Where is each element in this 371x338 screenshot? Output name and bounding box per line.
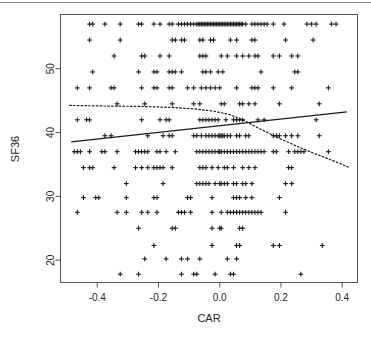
data-point-marker [90,22,95,27]
data-point-marker [213,181,218,186]
data-point-marker [188,195,193,200]
data-point-marker [197,101,202,106]
data-point-marker [124,210,129,215]
data-point-marker [179,272,184,277]
data-point-marker [228,133,233,138]
data-point-marker [145,165,150,170]
data-point-marker [179,70,184,75]
data-point-marker [170,22,175,27]
data-point-marker [211,38,216,43]
data-point-marker [243,181,248,186]
data-point-marker [317,133,322,138]
data-point-marker [265,22,270,27]
data-point-marker [259,70,264,75]
data-point-marker [256,54,261,59]
data-point-marker [237,243,242,248]
data-point-marker [213,85,218,90]
data-point-marker [246,165,251,170]
data-point-marker [216,70,221,75]
data-point-marker [234,38,239,43]
data-point-marker [139,85,144,90]
data-point-marker [234,54,239,59]
plot-panel [61,15,358,283]
data-point-marker [317,101,322,106]
data-point-marker [118,38,123,43]
data-point-marker [311,38,316,43]
data-point-marker [277,195,282,200]
data-point-marker [167,117,172,122]
data-point-marker [197,256,202,261]
data-point-marker [155,195,160,200]
data-point-marker [75,210,80,215]
data-point-marker [199,133,204,138]
data-point-marker [182,210,187,215]
data-point-marker [173,149,178,154]
data-point-marker [274,149,279,154]
data-point-marker [283,210,288,215]
data-point-marker [191,101,196,106]
y-axis-title: SF36 [9,136,21,162]
data-point-marker [237,195,242,200]
data-point-marker [173,38,178,43]
data-point-marker [259,210,264,215]
data-point-marker [253,101,258,106]
data-point-marker [188,210,193,215]
data-point-marker [170,133,175,138]
data-points-layer [72,22,339,277]
data-point-marker [155,85,160,90]
data-point-marker [309,22,314,27]
data-point-marker [199,85,204,90]
data-point-marker [170,85,175,90]
data-point-marker [204,70,209,75]
data-point-marker [246,133,251,138]
data-point-marker [185,85,190,90]
data-point-marker [204,165,209,170]
data-point-marker [87,149,92,154]
data-point-marker [139,210,144,215]
data-point-marker [164,256,169,261]
data-point-marker [167,54,172,59]
data-point-marker [225,181,230,186]
data-point-marker [216,165,221,170]
data-point-marker [115,101,120,106]
data-point-marker [194,272,199,277]
data-point-marker [295,133,300,138]
data-point-marker [222,101,227,106]
data-point-marker [210,210,215,215]
y-tick-label: 20 [45,254,56,266]
data-point-marker [243,22,248,27]
fit-lines-layer [70,105,350,167]
data-point-marker [225,165,230,170]
data-point-marker [81,195,86,200]
data-point-marker [161,133,166,138]
data-point-marker [112,85,117,90]
data-point-marker [289,165,294,170]
data-point-marker [216,117,221,122]
data-point-marker [145,210,150,215]
data-point-marker [115,210,120,215]
data-point-marker [249,195,254,200]
data-point-marker [136,226,141,231]
data-point-marker [90,70,95,75]
data-point-marker [151,22,156,27]
data-point-marker [210,226,215,231]
data-point-marker [228,38,233,43]
data-point-marker [207,181,212,186]
data-point-marker [208,70,213,75]
data-point-marker [298,272,303,277]
data-point-marker [295,70,300,75]
data-point-marker [191,85,196,90]
data-point-marker [210,243,215,248]
x-tick-label: -0.4 [89,292,107,303]
data-point-marker [295,54,300,59]
data-point-marker [249,181,254,186]
data-point-marker [161,165,166,170]
y-tick-label: 30 [45,190,56,202]
data-point-marker [194,133,199,138]
x-tick-label: 0.0 [213,292,227,303]
data-point-marker [118,272,123,277]
data-point-marker [223,117,228,122]
scatter-plot-figure: -0.4-0.20.00.20.420304050 CAR SF36 [0,0,371,338]
data-point-marker [136,272,141,277]
data-point-marker [210,165,215,170]
